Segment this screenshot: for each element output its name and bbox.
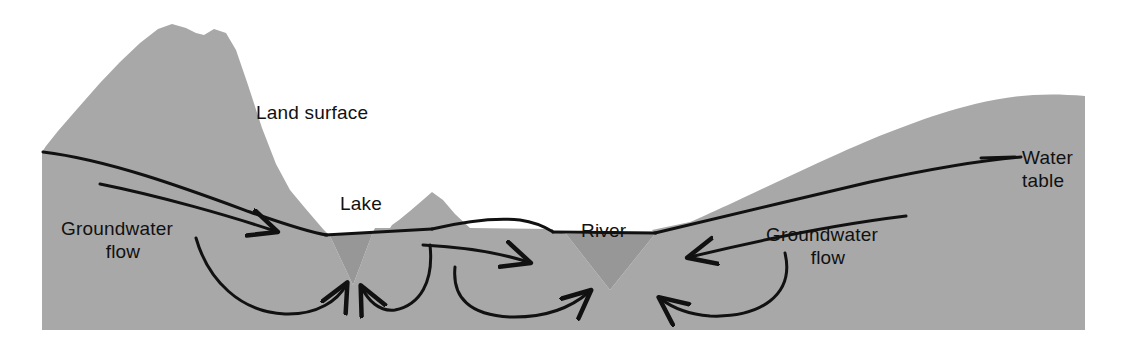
label-groundwater-left-line1: Groundwater	[61, 218, 174, 239]
water-table-leader-group	[981, 157, 1015, 158]
diagram-canvas: Land surface Lake River Water table Grou…	[0, 0, 1123, 346]
label-land-surface: Land surface	[256, 102, 368, 123]
label-lake: Lake	[340, 193, 382, 214]
land-mass-group	[42, 20, 1092, 332]
label-groundwater-left-line2: flow	[106, 241, 141, 262]
label-water-table-line2: table	[1022, 170, 1064, 191]
label-groundwater-right-line1: Groundwater	[766, 224, 879, 245]
paper-texture	[42, 20, 1092, 332]
label-groundwater-right-line2: flow	[811, 247, 846, 268]
label-river: River	[581, 220, 627, 241]
water-table-leader-line	[981, 157, 1015, 158]
groundwater-diagram: Land surface Lake River Water table Grou…	[0, 0, 1123, 346]
label-water-table-line1: Water	[1022, 147, 1073, 168]
